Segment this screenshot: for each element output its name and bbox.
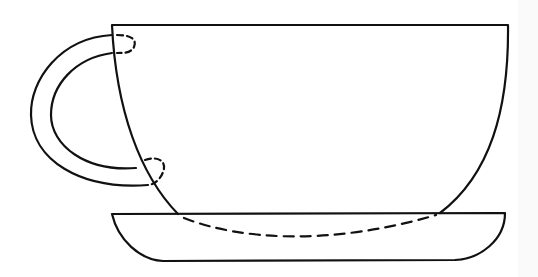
handle-joint-top (117, 35, 135, 53)
cup-body (112, 25, 508, 214)
hidden-cup-bottom (184, 215, 436, 236)
teacup-illustration (0, 0, 538, 277)
